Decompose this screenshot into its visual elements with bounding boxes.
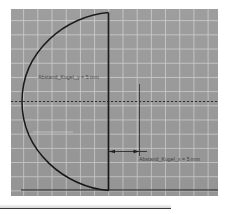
bottom-divider-rule bbox=[0, 208, 171, 209]
screenshot-root: Abstand_Kugel_y = 5 mm Abstand_Kugel_x =… bbox=[0, 0, 228, 214]
annotation-abstand-kugel-x[interactable]: Abstand_Kugel_x = 5 mm bbox=[139, 156, 200, 163]
dimension-arrow-right-icon bbox=[134, 150, 140, 153]
annotation-abstand-kugel-y[interactable]: Abstand_Kugel_y = 5 mm bbox=[38, 74, 99, 81]
drawing-canvas[interactable]: Abstand_Kugel_y = 5 mm Abstand_Kugel_x =… bbox=[11, 9, 218, 196]
dimension-arrow-left-icon bbox=[109, 150, 115, 153]
sketch-geometry-layer bbox=[11, 9, 218, 196]
